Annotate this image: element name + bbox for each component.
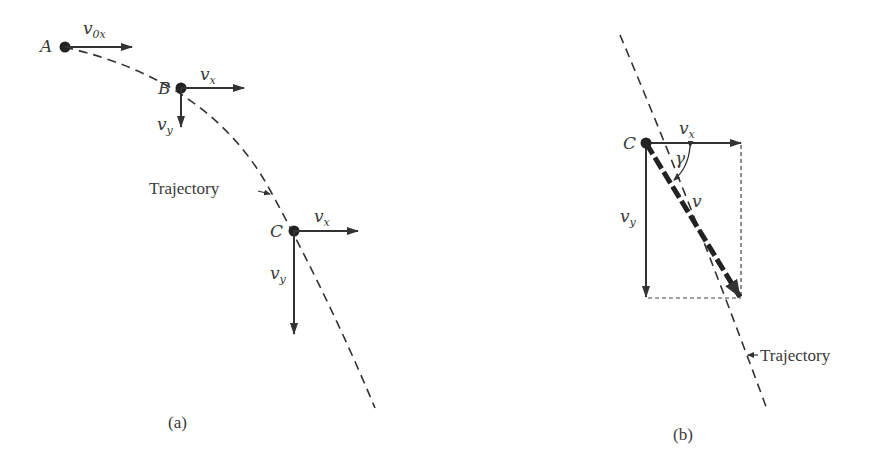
label-angle-gamma: γ — [675, 150, 685, 167]
label-v0x: v0x — [83, 20, 106, 40]
label-vy-b: vy — [157, 116, 173, 136]
label-point-b: B — [158, 80, 171, 97]
label-vy-b-panel: vy — [620, 208, 636, 228]
label-point-c-b: C — [623, 135, 636, 152]
vector-v-resultant — [646, 143, 740, 297]
label-v-resultant: v — [692, 193, 702, 210]
label-vy-c-a: vy — [270, 265, 286, 285]
label-point-a: A — [40, 38, 52, 55]
label-point-c-a: C — [270, 223, 283, 240]
panel-b — [620, 35, 768, 412]
trajectory-label-a: Trajectory — [149, 180, 219, 197]
projectile-diagram — [0, 0, 880, 473]
trajectory-pointer-a — [258, 191, 270, 194]
point-c-dot-b — [641, 138, 652, 149]
trajectory-label-b: Trajectory — [760, 347, 830, 364]
label-vx-b: vx — [200, 66, 216, 86]
label-vx-b-panel: vx — [679, 120, 695, 140]
label-vx-c-a: vx — [314, 208, 330, 228]
caption-b: (b) — [673, 426, 693, 443]
caption-a: (a) — [168, 414, 187, 431]
